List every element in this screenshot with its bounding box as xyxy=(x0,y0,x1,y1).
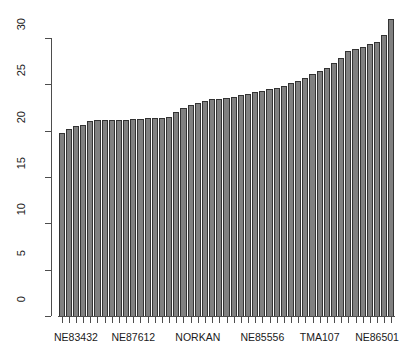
bar xyxy=(374,42,380,316)
x-tick xyxy=(176,317,177,323)
x-tick xyxy=(212,317,213,323)
x-tick xyxy=(255,317,256,323)
x-tick xyxy=(320,317,321,323)
bar xyxy=(188,105,194,316)
x-tick xyxy=(76,317,77,323)
x-tick xyxy=(384,317,385,323)
x-tick xyxy=(219,317,220,323)
bar xyxy=(159,118,165,316)
x-tick xyxy=(205,317,206,323)
bar xyxy=(94,120,100,316)
x-tick xyxy=(284,317,285,323)
bar xyxy=(288,83,294,316)
x-tick xyxy=(183,317,184,323)
bar xyxy=(281,86,287,316)
bar xyxy=(238,95,244,316)
bar xyxy=(360,47,366,316)
x-tick xyxy=(248,317,249,323)
bar xyxy=(152,118,158,316)
x-tick xyxy=(162,317,163,323)
bar xyxy=(145,118,151,316)
x-tick xyxy=(90,317,91,323)
x-tick xyxy=(341,317,342,323)
x-tick xyxy=(62,317,63,323)
x-tick xyxy=(112,317,113,323)
bar xyxy=(223,98,229,316)
bar xyxy=(202,101,208,316)
x-tick xyxy=(370,317,371,323)
x-tick xyxy=(169,317,170,323)
x-tick-label-ne83432: NE83432 xyxy=(54,331,98,343)
bar xyxy=(173,112,179,316)
bar xyxy=(130,119,136,316)
x-tick xyxy=(327,317,328,323)
bar xyxy=(245,94,251,316)
x-tick xyxy=(133,317,134,323)
bar xyxy=(259,91,265,316)
bar xyxy=(73,126,79,316)
bar-series xyxy=(0,0,412,361)
x-tick xyxy=(234,317,235,323)
bar xyxy=(317,71,323,316)
x-tick xyxy=(334,317,335,323)
x-tick xyxy=(69,317,70,323)
x-tick xyxy=(83,317,84,323)
x-tick xyxy=(262,317,263,323)
bar xyxy=(59,133,65,316)
x-tick xyxy=(377,317,378,323)
x-tick xyxy=(155,317,156,323)
x-tick xyxy=(363,317,364,323)
bar xyxy=(381,35,387,316)
bar xyxy=(295,81,301,316)
x-tick-label-norkan: NORKAN xyxy=(175,331,220,343)
bar xyxy=(116,120,122,316)
bar xyxy=(388,19,394,316)
bar xyxy=(252,92,258,316)
bar xyxy=(195,103,201,316)
x-tick xyxy=(356,317,357,323)
bar xyxy=(274,88,280,316)
x-tick xyxy=(277,317,278,323)
x-tick xyxy=(391,317,392,323)
x-tick xyxy=(97,317,98,323)
x-tick xyxy=(105,317,106,323)
x-tick xyxy=(119,317,120,323)
bar xyxy=(137,119,143,316)
bar xyxy=(309,74,315,316)
x-tick-label-ne86501: NE86501 xyxy=(355,331,399,343)
x-tick xyxy=(270,317,271,323)
bar xyxy=(80,125,86,316)
x-tick xyxy=(291,317,292,323)
bar xyxy=(180,108,186,316)
bar xyxy=(66,129,72,316)
x-tick xyxy=(227,317,228,323)
x-tick xyxy=(241,317,242,323)
bar xyxy=(352,49,358,316)
bar-chart-plot: 051015202530 NE83432NE87612NORKANNE85556… xyxy=(0,0,412,361)
x-tick xyxy=(348,317,349,323)
bar xyxy=(266,89,272,316)
bar xyxy=(216,99,222,316)
bar xyxy=(123,120,129,316)
x-tick xyxy=(126,317,127,323)
bar xyxy=(87,121,93,316)
x-tick xyxy=(313,317,314,323)
x-tick xyxy=(298,317,299,323)
bar xyxy=(166,117,172,316)
bar xyxy=(209,99,215,316)
bar xyxy=(367,44,373,316)
bar xyxy=(109,120,115,316)
bar xyxy=(324,68,330,316)
bar xyxy=(302,78,308,316)
x-tick xyxy=(305,317,306,323)
x-tick-label-ne87612: NE87612 xyxy=(111,331,155,343)
bar xyxy=(345,51,351,316)
x-tick xyxy=(148,317,149,323)
x-tick-label-ne85556: NE85556 xyxy=(240,331,284,343)
x-tick xyxy=(198,317,199,323)
x-tick xyxy=(191,317,192,323)
bar xyxy=(338,58,344,316)
bar xyxy=(331,63,337,316)
bar xyxy=(231,97,237,316)
x-tick xyxy=(140,317,141,323)
